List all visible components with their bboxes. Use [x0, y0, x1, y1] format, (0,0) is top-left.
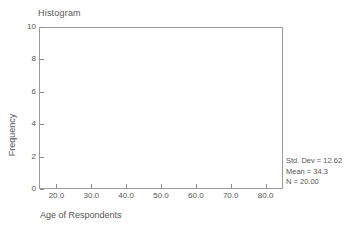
stat-mean: Mean = 34.3	[286, 167, 342, 178]
plot-frame	[39, 27, 283, 189]
x-axis-title: Age of Respondents	[39, 210, 284, 220]
y-tick-mark	[40, 157, 44, 158]
x-tick-mark	[91, 184, 92, 188]
y-tick-mark	[40, 59, 44, 60]
x-tick-label: 80.0	[246, 191, 286, 200]
x-tick-mark	[126, 184, 127, 188]
histogram-figure: Histogram 0246810 20.030.040.050.060.070…	[0, 0, 352, 233]
x-tick-mark	[56, 184, 57, 188]
x-tick-mark	[196, 184, 197, 188]
statistics-annotation: Std. Dev = 12.62 Mean = 34.3 N = 20.00	[286, 156, 342, 188]
y-tick-mark	[40, 27, 44, 28]
stat-std-dev: Std. Dev = 12.62	[286, 156, 342, 167]
y-tick-label: 2	[0, 153, 36, 161]
y-tick-label: 10	[0, 23, 36, 31]
y-tick-mark	[40, 189, 44, 190]
chart-title: Histogram	[38, 8, 81, 18]
y-tick-label: 6	[0, 88, 36, 96]
y-tick-label: 0	[0, 185, 36, 193]
y-tick-label: 8	[0, 55, 36, 63]
plot-area	[40, 28, 282, 188]
y-tick-label: 4	[0, 120, 36, 128]
y-tick-mark	[40, 92, 44, 93]
y-axis-title: Frequency	[7, 95, 17, 175]
x-tick-mark	[266, 184, 267, 188]
stat-n: N = 20.00	[286, 177, 342, 188]
x-tick-mark	[231, 184, 232, 188]
x-tick-mark	[161, 184, 162, 188]
y-tick-mark	[40, 124, 44, 125]
